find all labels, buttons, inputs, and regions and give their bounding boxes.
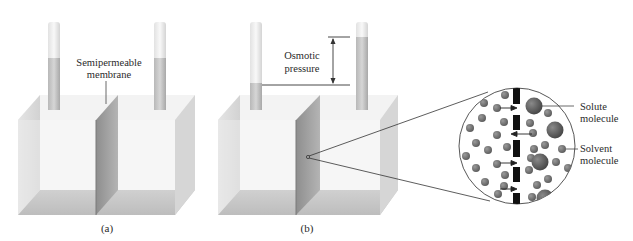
- caption-a: (a): [101, 222, 114, 235]
- solvent-label-line2: molecule: [580, 155, 619, 166]
- tube-right-a: [154, 22, 166, 110]
- tube-left-b: [250, 22, 262, 110]
- magnified-view: Solute molecule Solvent molecule: [459, 86, 619, 212]
- pressure-label-line2: pressure: [285, 63, 320, 74]
- solute-label-line1: Solute: [580, 101, 607, 112]
- pressure-label-line1: Osmotic: [284, 50, 320, 61]
- panel-b: Osmotic pressure (b): [218, 22, 490, 235]
- panel-a: Semipermeable membrane (a): [18, 22, 195, 235]
- osmotic-pressure-marker: [262, 37, 350, 85]
- tube-left-a: [48, 22, 60, 110]
- membrane-label-line2: membrane: [87, 69, 132, 80]
- caption-b: (b): [301, 222, 314, 235]
- membrane-label-line1: Semipermeable: [76, 57, 142, 68]
- solvent-label-line1: Solvent: [580, 143, 612, 154]
- tube-right-b: [356, 22, 368, 110]
- osmosis-diagram: Semipermeable membrane (a): [0, 0, 633, 241]
- solute-label-line2: molecule: [580, 113, 619, 124]
